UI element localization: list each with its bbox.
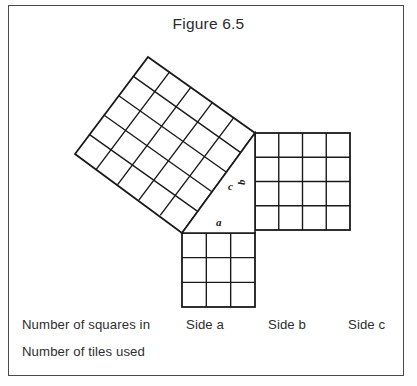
- table-column-header-side-a: Side a: [186, 317, 224, 332]
- table-row-label-tiles: Number of tiles used: [22, 344, 145, 359]
- square-a-outline: [182, 233, 255, 307]
- table-row-label-squares: Number of squares in: [22, 317, 150, 332]
- square-b-tiles: [255, 133, 350, 230]
- triangle-label-c: c: [228, 180, 233, 192]
- figure-page: Figure 6.5: [0, 0, 417, 386]
- triangle-label-b: b: [235, 179, 247, 185]
- table-column-header-side-c: Side c: [348, 317, 385, 332]
- table-column-header-side-b: Side b: [268, 317, 306, 332]
- triangle-label-a: a: [216, 216, 222, 228]
- square-a-tiles: [182, 233, 255, 307]
